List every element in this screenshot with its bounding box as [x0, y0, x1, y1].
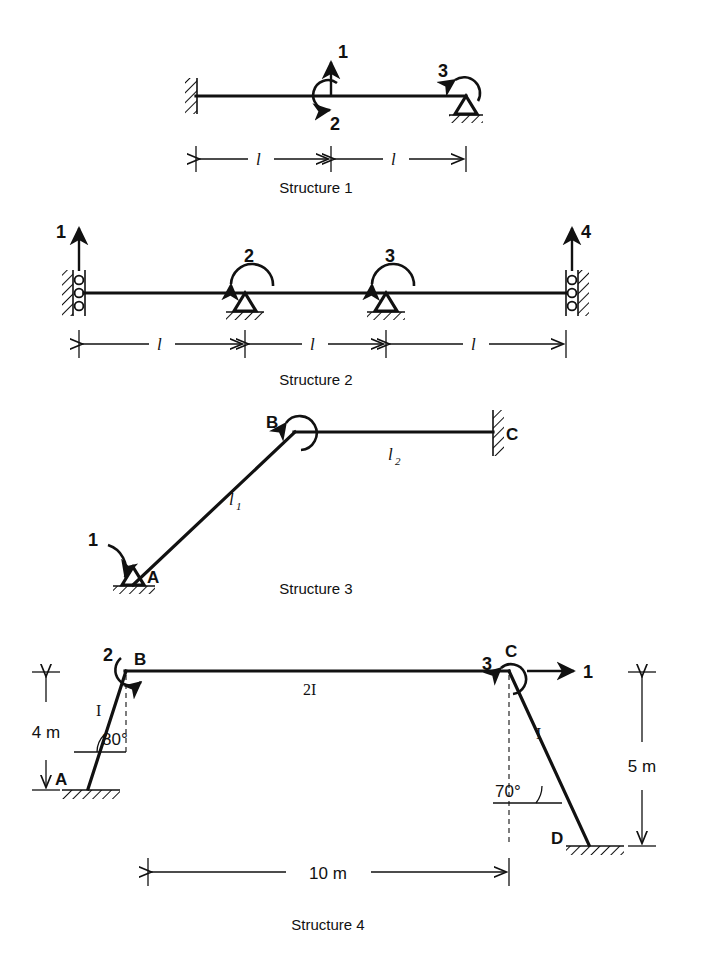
structure2-interior-pin-2 [367, 293, 405, 320]
structure4-left-column-stiffness: I [96, 702, 101, 719]
structure4-angle-80-label: 80° [102, 730, 128, 749]
structure4-support-A: A [55, 770, 120, 799]
structure1-moment-2-label: 2 [330, 114, 340, 134]
structure4-joint-D-label: D [551, 829, 563, 848]
structure4-force-1: 1 [527, 662, 593, 682]
structure3-l2-sub: 2 [395, 455, 401, 467]
structure3-joint-B-label: B [266, 413, 278, 432]
structure4-right-column-stiffness: I [536, 725, 541, 742]
structure2-moment-2-label: 2 [244, 246, 254, 266]
structure2-left-guided-support [62, 270, 85, 316]
structure4-right-column [509, 671, 589, 845]
structure2-moment-3-label: 3 [385, 246, 395, 266]
structure3-l2-label: l [388, 445, 393, 464]
structure1-force-1-label: 1 [338, 42, 348, 62]
structure2-moment-2: 2 [231, 246, 273, 286]
structure1-dim-right-label: l [391, 150, 396, 169]
structure3-support-C: C [493, 410, 518, 456]
structure3-member-l1 [133, 432, 295, 585]
structure2-force-4-label: 4 [581, 222, 591, 242]
structure4-joint-A-label: A [55, 770, 67, 789]
structure2-caption: Structure 2 [279, 371, 352, 388]
structure-3: A 1 B C l 1 l 2 Structure 3 [88, 410, 518, 597]
structure3-caption: Structure 3 [279, 580, 352, 597]
structure3-member-labels: l 1 l 2 [229, 445, 401, 512]
structure2-dim-2-label: l [310, 335, 315, 354]
structure2-force-1-label: 1 [56, 222, 66, 242]
structure2-interior-pin-1 [226, 293, 264, 320]
structure3-l1-sub: 1 [236, 500, 242, 512]
structure2-right-guided-support [566, 270, 589, 316]
structure3-moment-1-label: 1 [88, 530, 98, 550]
structure4-moment-2-label: 2 [103, 645, 113, 665]
structure1-force-1: 1 [331, 42, 348, 96]
structure2-moment-3: 3 [372, 246, 414, 286]
structure4-dim-10m-label: 10 m [309, 864, 347, 883]
structure4-caption: Structure 4 [291, 916, 364, 933]
structure-1: 1 2 3 l l Structur [185, 42, 483, 196]
structure4-angle-70-label: 70° [495, 782, 521, 801]
structure3-moment-1: 1 [88, 530, 126, 577]
structures-figure: 1 2 3 l l Structur [0, 0, 705, 972]
structure-4: A D B C 2 3 1 I 2I I [32, 642, 656, 933]
structure-2: 1 2 3 [56, 222, 591, 388]
structure1-dimensions: l l [196, 146, 466, 172]
structure2-force-4: 4 [572, 222, 591, 271]
structure4-beam-stiffness: 2I [303, 681, 316, 698]
structure4-force-1-label: 1 [583, 662, 593, 682]
structure4-dim-5m-label: 5 m [628, 757, 656, 776]
structure4-joint-C-label: C [505, 642, 517, 661]
structure1-moment-3-label: 3 [438, 61, 448, 81]
structure4-moment-3-label: 3 [482, 654, 492, 674]
structure2-dim-1-label: l [157, 335, 162, 354]
structure4-dim-10m: 10 m [148, 858, 509, 886]
structure2-dimensions: l l l [79, 330, 566, 358]
structure1-caption: Structure 1 [279, 179, 352, 196]
structure1-dim-left-label: l [256, 150, 261, 169]
structure2-force-1: 1 [56, 222, 79, 271]
structure2-dim-3-label: l [471, 335, 476, 354]
structure1-moment-2: 2 [313, 80, 340, 134]
structure4-joint-B-label: B [134, 650, 146, 669]
structure3-joint-A-label: A [147, 568, 159, 587]
structure3-joint-C-label: C [506, 425, 518, 444]
structure4-dim-4m-label: 4 m [32, 723, 60, 742]
structure3-l1-label: l [229, 490, 234, 509]
structure4-dim-5m: 5 m [628, 672, 656, 846]
